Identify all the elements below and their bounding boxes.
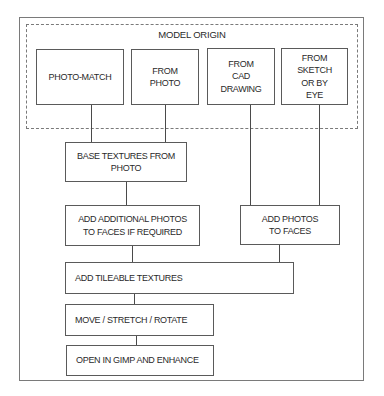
node-label: FROM PHOTO: [150, 65, 180, 90]
node-photo-match: PHOTO-MATCH: [36, 49, 124, 105]
node-label: OPEN IN GIMP AND ENHANCE: [76, 354, 199, 367]
node-label: PHOTO-MATCH: [49, 71, 112, 84]
node-label: ADD PHOTOS TO FACES: [262, 213, 318, 238]
connector-base-additional: [126, 181, 127, 205]
node-add-photos-to-faces: ADD PHOTOS TO FACES: [240, 205, 340, 245]
node-add-additional-photos: ADD ADDITIONAL PHOTOS TO FACES IF REQUIR…: [65, 205, 200, 246]
node-label: FROM SKETCH OR BY EYE: [297, 52, 332, 102]
connector-cad-addphotos: [250, 104, 251, 205]
node-add-tileable-textures: ADD TILEABLE TEXTURES: [65, 262, 294, 294]
connector-photomatch-base: [91, 104, 92, 142]
connector-move-gimp: [136, 335, 137, 345]
model-origin-title: MODEL ORIGIN: [26, 29, 358, 40]
connector-additional-tileable: [132, 245, 133, 262]
node-base-textures-from-photo: BASE TEXTURES FROM PHOTO: [65, 142, 187, 182]
node-from-sketch-or-by-eye: FROM SKETCH OR BY EYE: [281, 48, 348, 105]
node-label: MOVE / STRETCH / ROTATE: [75, 314, 187, 327]
connector-addphotos-tileable: [279, 244, 280, 262]
node-label: ADD TILEABLE TEXTURES: [75, 272, 182, 285]
node-from-cad-drawing: FROM CAD DRAWING: [207, 48, 275, 105]
node-label: ADD ADDITIONAL PHOTOS TO FACES IF REQUIR…: [78, 213, 187, 238]
node-open-in-gimp-and-enhance: OPEN IN GIMP AND ENHANCE: [66, 345, 214, 376]
node-label: FROM CAD DRAWING: [220, 58, 261, 96]
connector-tileable-move: [134, 293, 135, 304]
node-from-photo: FROM PHOTO: [131, 49, 199, 105]
connector-sketch-addphotos: [319, 104, 320, 205]
node-move-stretch-rotate: MOVE / STRETCH / ROTATE: [65, 304, 214, 336]
node-label: BASE TEXTURES FROM PHOTO: [77, 150, 175, 175]
connector-fromphoto-base: [165, 104, 166, 142]
